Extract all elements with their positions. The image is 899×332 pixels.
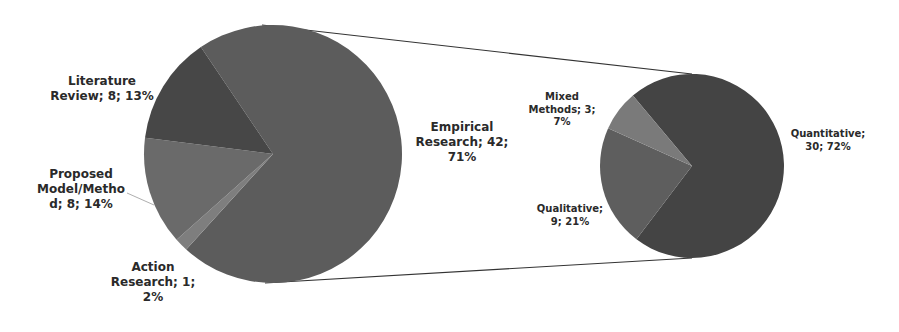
label-empirical-research: Empirical Research; 42; 71% — [410, 120, 514, 165]
label-line: Model/Metho — [26, 182, 136, 197]
label-line: Research; 42; — [410, 135, 514, 150]
label-mixed-methods: Mixed Methods; 3; 7% — [526, 91, 598, 129]
label-line: Action — [100, 260, 206, 275]
label-line: Quantitative; — [786, 128, 870, 141]
label-line: 30; 72% — [786, 141, 870, 154]
label-action-research: Action Research; 1; 2% — [100, 260, 206, 305]
label-quantitative: Quantitative; 30; 72% — [786, 128, 870, 153]
label-line: Literature — [42, 74, 162, 89]
label-line: Review; 8; 13% — [42, 89, 162, 104]
label-line: Proposed — [26, 167, 136, 182]
secondary-pie — [600, 74, 784, 258]
label-line: Mixed — [526, 91, 598, 104]
label-line: 9; 21% — [532, 216, 608, 229]
label-line: Empirical — [410, 120, 514, 135]
label-line: d; 8; 14% — [26, 197, 136, 212]
label-line: 7% — [526, 116, 598, 129]
label-proposed-model: Proposed Model/Metho d; 8; 14% — [26, 167, 136, 212]
label-line: Qualitative; — [532, 203, 608, 216]
label-line: Research; 1; — [100, 275, 206, 290]
label-literature-review: Literature Review; 8; 13% — [42, 74, 162, 104]
label-line: 71% — [410, 150, 514, 165]
main-pie — [144, 25, 402, 283]
label-qualitative: Qualitative; 9; 21% — [532, 203, 608, 228]
label-line: Methods; 3; — [526, 104, 598, 117]
label-line: 2% — [100, 290, 206, 305]
